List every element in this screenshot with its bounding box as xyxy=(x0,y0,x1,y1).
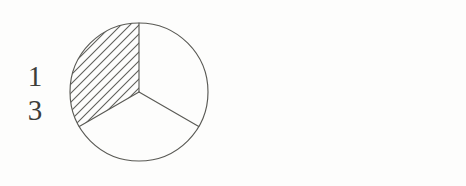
hatch-pattern-one-third xyxy=(66,18,156,166)
shaded-sector-one-third xyxy=(66,18,156,166)
fraction-group-one-fourth: 1 4 xyxy=(233,0,466,186)
radius-divider-lower-right xyxy=(139,92,199,127)
fraction-denominator: 3 xyxy=(28,93,43,125)
pie-circle-one-third xyxy=(66,18,212,166)
fraction-label-one-third: 1 3 xyxy=(18,62,52,124)
fraction-group-one-third: 1 3 xyxy=(0,0,233,186)
fraction-numerator: 1 xyxy=(28,62,43,93)
radius-divider-lower-left xyxy=(79,92,139,127)
fraction-figure: 1 3 xyxy=(0,0,466,186)
